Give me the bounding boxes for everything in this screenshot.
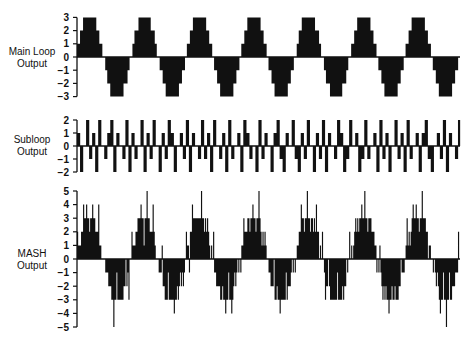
- main-loop-chart: 3210−1−2−3: [58, 12, 460, 102]
- y-tick-label: −1: [58, 154, 70, 165]
- y-tick-label: 3: [63, 12, 69, 23]
- y-tick-label: 1: [63, 240, 69, 251]
- waveform-plots: 3210−1−2−3210−1−2543210−1−2−3−4−5: [0, 0, 472, 337]
- y-tick-label: −1: [58, 267, 70, 278]
- y-tick-label: 4: [63, 199, 69, 210]
- y-tick-label: 2: [63, 226, 69, 237]
- y-tick-label: −5: [58, 322, 70, 333]
- y-tick-label: 0: [63, 52, 69, 63]
- y-tick-label: 3: [63, 213, 69, 224]
- y-tick-label: 0: [63, 254, 69, 265]
- y-tick-label: −1: [58, 65, 70, 76]
- subloop-chart: 210−1−2: [58, 115, 461, 178]
- y-tick-label: 1: [63, 38, 69, 49]
- y-tick-label: −2: [58, 281, 70, 292]
- mash-chart: 543210−1−2−3−4−5: [58, 186, 460, 333]
- y-tick-label: 1: [63, 128, 69, 139]
- y-tick-label: −2: [58, 167, 70, 178]
- y-tick-label: −3: [58, 91, 70, 102]
- y-tick-label: −3: [58, 294, 70, 305]
- y-tick-label: 0: [63, 141, 69, 152]
- y-tick-label: 2: [63, 115, 69, 126]
- y-tick-label: −4: [58, 308, 70, 319]
- y-tick-label: 2: [63, 25, 69, 36]
- y-tick-label: −2: [58, 78, 70, 89]
- y-tick-label: 5: [63, 186, 69, 197]
